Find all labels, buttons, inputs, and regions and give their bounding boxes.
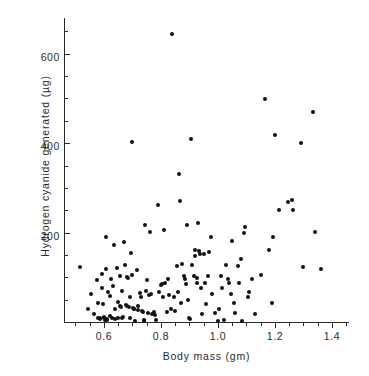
data-point [230, 239, 234, 243]
data-point [130, 140, 134, 144]
data-point [102, 316, 106, 320]
data-point [220, 286, 224, 290]
data-point [172, 295, 176, 299]
data-point [163, 281, 167, 285]
data-point [165, 310, 169, 314]
data-point [239, 257, 243, 261]
data-point [125, 275, 129, 279]
data-point [135, 268, 139, 272]
data-point [311, 110, 315, 114]
x-axis-line [64, 322, 349, 323]
data-point [128, 316, 132, 320]
data-point [157, 290, 161, 294]
data-point [152, 310, 156, 314]
y-axis-tick [64, 255, 68, 256]
data-point [203, 281, 207, 285]
data-point [118, 274, 122, 278]
y-axis-tick-label-wrap: 600 [0, 47, 60, 65]
x-axis-tick [261, 322, 262, 326]
data-point [246, 295, 250, 299]
data-point [190, 263, 194, 267]
x-axis-tick [189, 322, 190, 326]
data-point [124, 303, 128, 307]
data-point [120, 316, 124, 320]
data-point [140, 309, 144, 313]
data-point [161, 295, 165, 299]
x-axis-tick [90, 322, 91, 326]
data-point [179, 301, 183, 305]
x-axis-tick-label: 0.8 [153, 330, 169, 342]
data-point [186, 298, 190, 302]
x-axis-tick [104, 322, 105, 328]
data-point [96, 316, 100, 320]
data-point [173, 309, 177, 313]
data-point [100, 272, 104, 276]
data-point [299, 141, 303, 145]
data-point [270, 301, 274, 305]
data-point [138, 291, 142, 295]
scatter-plot-figure: 2004006000.60.81.01.21.4 Body mass (gm) … [0, 0, 369, 376]
data-point [170, 32, 174, 36]
y-axis-tick [64, 277, 68, 278]
data-point [188, 317, 192, 321]
data-point [127, 305, 131, 309]
data-point [108, 314, 112, 318]
y-axis-tick [64, 31, 68, 32]
y-axis-tick [64, 210, 68, 211]
data-point [195, 276, 199, 280]
data-point [141, 310, 145, 314]
data-point [122, 240, 126, 244]
data-point [147, 293, 151, 297]
data-point [160, 282, 164, 286]
data-point [177, 172, 181, 176]
data-point [95, 278, 99, 282]
data-point [102, 315, 106, 319]
data-point [202, 252, 206, 256]
data-point [319, 267, 323, 271]
data-point [148, 230, 152, 234]
y-axis-tick [64, 300, 68, 301]
data-point [182, 274, 186, 278]
data-point [116, 300, 120, 304]
x-axis-tick [204, 322, 205, 326]
data-point [106, 290, 110, 294]
y-axis-title: Hydrogen cyanide generated (µg) [39, 36, 51, 296]
data-point [101, 302, 105, 306]
data-point [204, 302, 208, 306]
data-point [180, 262, 184, 266]
data-point [185, 223, 189, 227]
x-axis-tick [246, 322, 247, 326]
data-point [123, 263, 127, 267]
data-point [169, 307, 173, 311]
data-point [111, 284, 115, 288]
data-point [301, 265, 305, 269]
y-axis-tick [64, 98, 68, 99]
data-point [189, 137, 193, 141]
data-point [100, 286, 104, 290]
data-point [143, 223, 147, 227]
data-point [104, 267, 108, 271]
data-point [199, 286, 203, 290]
data-point [98, 317, 102, 321]
data-point [237, 281, 241, 285]
data-point [78, 265, 82, 269]
data-point [130, 273, 134, 277]
data-point [193, 248, 197, 252]
x-axis-tick [147, 322, 148, 326]
data-point [118, 304, 122, 308]
data-point [113, 317, 117, 321]
x-axis-tick [218, 322, 219, 328]
data-point [108, 294, 112, 298]
data-point [162, 228, 166, 232]
x-axis-tick [318, 322, 319, 326]
data-point [198, 252, 202, 256]
data-point [112, 243, 116, 247]
y-axis-tick [64, 233, 70, 234]
data-point [136, 304, 140, 308]
data-point [175, 264, 179, 268]
data-point [150, 312, 154, 316]
x-axis-tick [289, 322, 290, 326]
data-point [233, 311, 237, 315]
data-point [232, 301, 236, 305]
data-point [250, 277, 254, 281]
